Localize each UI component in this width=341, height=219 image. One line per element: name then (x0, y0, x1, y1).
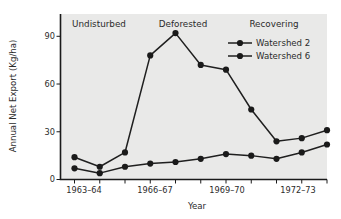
x-tick-label-1969-70: 1969–70 (209, 185, 244, 195)
y-tick-label-60: 60 (45, 79, 55, 89)
phase-label-undisturbed: Undisturbed (72, 19, 126, 29)
y-tick-label-0: 0 (50, 174, 55, 184)
phase-label-recovering: Recovering (249, 19, 298, 29)
x-tick-label-1963-64: 1963–64 (66, 185, 101, 195)
data-point (299, 135, 305, 141)
data-point (223, 151, 229, 157)
phase-label-deforested: Deforested (159, 19, 208, 29)
legend-marker-watershed-2 (237, 40, 243, 46)
data-point (147, 160, 153, 166)
data-point (71, 165, 77, 171)
line-chart: Undisturbed Deforested Recovering 0 30 6… (0, 0, 341, 219)
data-point (299, 149, 305, 155)
data-point (324, 141, 330, 147)
data-point (198, 156, 204, 162)
data-point (97, 170, 103, 176)
x-axis-title: Year (187, 201, 207, 211)
y-tick-label-30: 30 (45, 127, 55, 137)
legend-label-watershed-6: Watershed 6 (256, 51, 310, 61)
data-point (273, 156, 279, 162)
data-point (122, 164, 128, 170)
data-point (172, 30, 178, 36)
legend-marker-watershed-6 (237, 53, 243, 59)
x-tick-label-1972-73: 1972–73 (280, 185, 315, 195)
chart-figure: Undisturbed Deforested Recovering 0 30 6… (0, 0, 341, 219)
data-point (122, 149, 128, 155)
data-point (147, 52, 153, 58)
data-point (97, 164, 103, 170)
data-point (223, 67, 229, 73)
legend-label-watershed-2: Watershed 2 (256, 38, 310, 48)
data-point (198, 62, 204, 68)
data-point (324, 127, 330, 133)
data-point (248, 153, 254, 159)
data-point (248, 106, 254, 112)
data-point (273, 138, 279, 144)
y-tick-label-90: 90 (45, 31, 55, 41)
data-point (172, 159, 178, 165)
data-point (71, 154, 77, 160)
x-tick-label-1966-67: 1966–67 (137, 185, 172, 195)
y-axis-title: Annual Net Export (Kg/ha) (8, 40, 18, 153)
